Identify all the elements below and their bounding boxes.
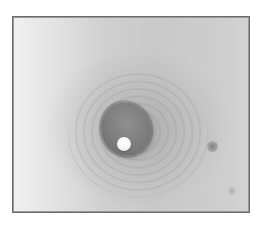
- white-droplet: [117, 137, 131, 151]
- faint-skin-spot: [228, 187, 236, 195]
- skin-spot: [207, 141, 218, 152]
- photograph: [12, 16, 250, 213]
- page: [0, 0, 264, 226]
